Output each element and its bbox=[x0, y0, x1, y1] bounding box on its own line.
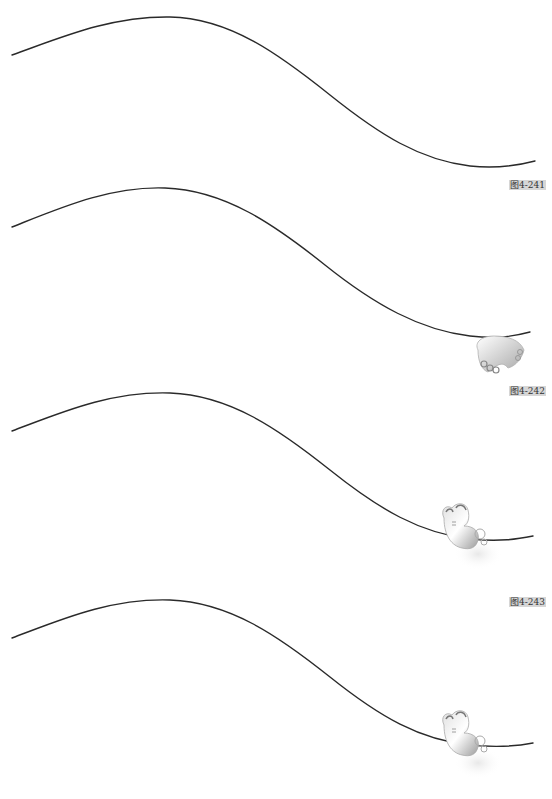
curve-illustration bbox=[0, 0, 552, 799]
butterfly-icon bbox=[443, 711, 502, 779]
figure-4-244 bbox=[0, 0, 552, 799]
